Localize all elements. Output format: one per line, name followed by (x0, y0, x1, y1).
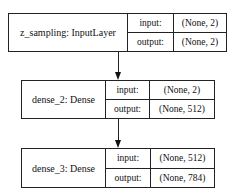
edge-line (118, 119, 119, 141)
node-title: z_sampling: InputLayer (9, 14, 128, 51)
output-shape: (None, 2) (174, 33, 226, 51)
node-title: dense_3: Dense (22, 149, 106, 187)
arrow-down-icon (115, 72, 121, 80)
node-dense-3: dense_3: Dense input: (None, 512) output… (21, 148, 215, 188)
arrow-down-icon (115, 140, 121, 148)
io-table: input: (None, 512) output: (None, 784) (106, 149, 214, 187)
output-row: output: (None, 512) (106, 99, 214, 118)
io-table: input: (None, 2) output: (None, 2) (128, 14, 226, 51)
output-row: output: (None, 784) (106, 168, 214, 188)
output-label: output: (128, 33, 174, 51)
output-shape: (None, 512) (150, 100, 214, 118)
output-row: output: (None, 2) (128, 32, 226, 51)
output-label: output: (106, 100, 150, 118)
input-shape: (None, 512) (151, 149, 214, 168)
input-label: input: (106, 81, 150, 99)
node-z-sampling: z_sampling: InputLayer input: (None, 2) … (8, 13, 227, 52)
input-label: input: (106, 149, 151, 168)
edge-line (118, 52, 119, 73)
node-title: dense_2: Dense (22, 81, 106, 118)
output-shape: (None, 784) (151, 169, 214, 188)
input-row: input: (None, 2) (128, 14, 226, 32)
input-row: input: (None, 512) (106, 149, 214, 168)
node-dense-2: dense_2: Dense input: (None, 2) output: … (21, 80, 215, 119)
input-label: input: (128, 14, 174, 32)
io-table: input: (None, 2) output: (None, 512) (106, 81, 214, 118)
input-shape: (None, 2) (174, 14, 226, 32)
output-label: output: (106, 169, 151, 188)
input-row: input: (None, 2) (106, 81, 214, 99)
input-shape: (None, 2) (150, 81, 214, 99)
